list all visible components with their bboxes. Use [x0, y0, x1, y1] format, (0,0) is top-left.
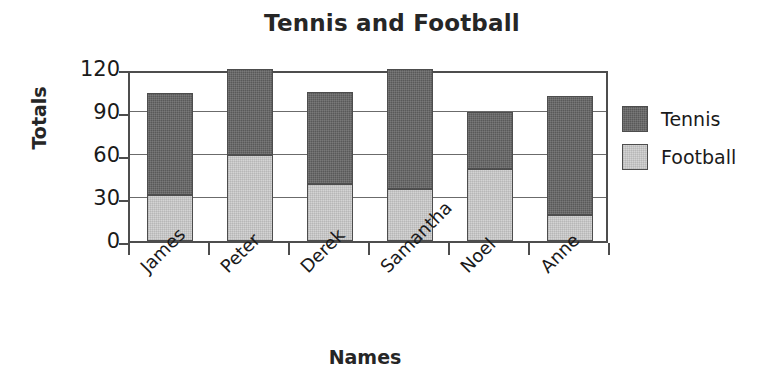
- bar-segment-tennis[interactable]: [307, 92, 353, 184]
- bar-segment-tennis[interactable]: [467, 112, 513, 169]
- bar-segment-football[interactable]: [227, 155, 273, 241]
- y-tick-label: 90: [60, 100, 120, 124]
- y-tick-label: 0: [60, 229, 120, 253]
- bar-group[interactable]: [547, 69, 593, 241]
- plot-area: [128, 71, 608, 243]
- y-tick-mark: [119, 157, 130, 159]
- bar-group[interactable]: [307, 69, 353, 241]
- bar-group[interactable]: [147, 69, 193, 241]
- bar-segment-tennis[interactable]: [547, 96, 593, 215]
- x-tick-mark: [528, 243, 530, 255]
- legend-label-tennis: Tennis: [661, 108, 720, 130]
- y-tick-mark: [119, 114, 130, 116]
- y-tick-label: 30: [60, 186, 120, 210]
- bar-segment-football[interactable]: [467, 169, 513, 241]
- legend-swatch-tennis: [622, 106, 648, 132]
- chart-figure: Tennis and Football Totals Names Tennis …: [0, 0, 784, 384]
- y-tick-label: 60: [60, 143, 120, 167]
- x-tick-mark: [368, 243, 370, 255]
- legend-item-tennis: Tennis: [622, 100, 772, 138]
- legend-swatch-football: [622, 144, 648, 170]
- x-tick-mark: [448, 243, 450, 255]
- legend-label-football: Football: [661, 146, 736, 168]
- y-tick-mark: [119, 200, 130, 202]
- chart-legend: Tennis Football: [622, 100, 772, 176]
- y-tick-label: 120: [60, 57, 120, 81]
- chart-title: Tennis and Football: [0, 10, 784, 36]
- gridline: [130, 111, 606, 112]
- legend-item-football: Football: [622, 138, 772, 176]
- bar-segment-tennis[interactable]: [387, 69, 433, 189]
- y-axis-title: Totals: [28, 73, 50, 163]
- bar-group[interactable]: [227, 69, 273, 241]
- x-tick-mark: [288, 243, 290, 255]
- gridline: [130, 197, 606, 198]
- x-tick-mark: [608, 243, 610, 255]
- x-tick-mark: [128, 243, 130, 255]
- gridline: [130, 154, 606, 155]
- bar-group[interactable]: [467, 69, 513, 241]
- bar-segment-tennis[interactable]: [227, 69, 273, 155]
- x-tick-mark: [208, 243, 210, 255]
- x-axis-title: Names: [120, 346, 610, 368]
- y-tick-mark: [119, 71, 130, 73]
- bar-segment-tennis[interactable]: [147, 93, 193, 195]
